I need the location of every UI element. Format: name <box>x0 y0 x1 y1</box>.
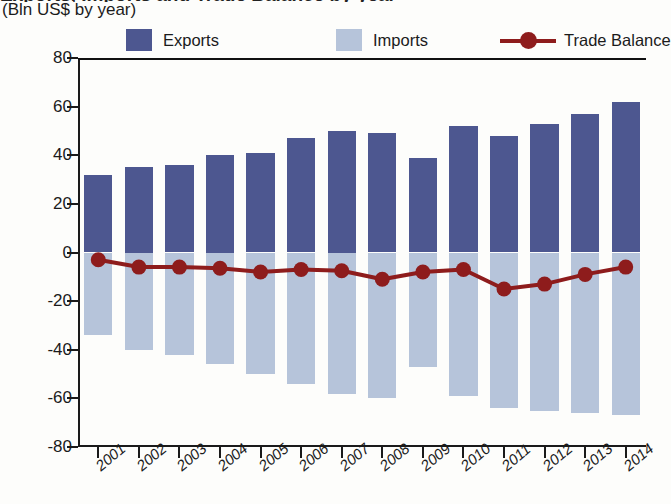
y-tick-label-60: 60 <box>53 97 72 117</box>
trade-balance-point-2007 <box>334 263 349 278</box>
plot-area: 806040200-20-40-60-80 200120022003200420… <box>78 58 646 447</box>
trade-balance-point-2012 <box>537 277 552 292</box>
trade-balance-point-2003 <box>172 260 187 275</box>
trade-balance-point-2011 <box>497 281 512 296</box>
trade-balance-point-2005 <box>253 264 268 279</box>
legend-item-trade-balance: Trade Balance <box>500 27 671 53</box>
trade-balance-point-2002 <box>131 260 146 275</box>
y-tick-label-40: 40 <box>53 145 72 165</box>
legend-item-exports: Exports <box>126 27 219 53</box>
legend-label-imports: Imports <box>373 31 428 50</box>
y-tick-label-0: 0 <box>63 243 72 263</box>
y-tick-label--40: -40 <box>47 340 72 360</box>
y-tick-label--80: -80 <box>47 437 72 457</box>
y-tick-label--60: -60 <box>47 388 72 408</box>
y-tick-label--20: -20 <box>47 291 72 311</box>
trade-balance-line-icon <box>500 29 556 51</box>
chart-subtitle: (Bln US$ by year) <box>2 0 136 20</box>
legend-label-trade-balance: Trade Balance <box>564 31 671 50</box>
trade-balance-point-2008 <box>375 272 390 287</box>
exports-swatch-icon <box>126 29 152 51</box>
trade-balance-point-2004 <box>213 261 228 276</box>
trade-balance-point-2009 <box>415 264 430 279</box>
trade-balance-point-2001 <box>91 252 106 267</box>
trade-balance-point-2014 <box>618 260 633 275</box>
trade-balance-point-2013 <box>578 267 593 282</box>
y-tick-label-20: 20 <box>53 194 72 214</box>
trade-balance-series <box>78 58 646 447</box>
legend-item-imports: Imports <box>336 27 428 53</box>
trade-balance-point-2006 <box>294 262 309 277</box>
chart-legend: Exports Imports Trade Balance <box>126 27 646 53</box>
legend-label-exports: Exports <box>163 31 219 50</box>
trade-balance-point-2010 <box>456 262 471 277</box>
imports-swatch-icon <box>336 29 362 51</box>
y-tick-label-80: 80 <box>53 48 72 68</box>
